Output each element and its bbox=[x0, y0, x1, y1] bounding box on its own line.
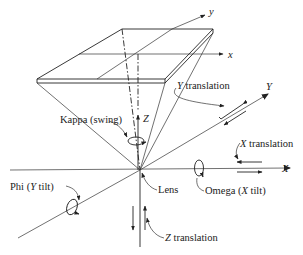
phi-label: Phi (Y tilt) bbox=[10, 181, 54, 193]
image-x-label: x bbox=[227, 49, 233, 60]
camera-orientation-diagram: x y Z Kappa (swing) X Y bbox=[0, 0, 303, 255]
ground-z-label: Z bbox=[143, 113, 149, 124]
omega-label: Omega (X tilt) bbox=[205, 185, 266, 197]
lens-leader bbox=[142, 173, 157, 190]
z-translation-leader bbox=[147, 218, 164, 238]
image-y-label: y bbox=[208, 6, 214, 17]
phi-leader bbox=[66, 186, 79, 200]
x-translation-arrows bbox=[237, 162, 262, 172]
x-translation-label: X translation bbox=[239, 138, 294, 149]
z-translation-label: Z translation bbox=[165, 232, 219, 243]
y-translation-label: Y translation bbox=[177, 80, 231, 91]
image-y-axis: y bbox=[172, 6, 214, 29]
ground-x-label: X bbox=[281, 163, 289, 174]
y-translation-arrows bbox=[219, 104, 246, 125]
kappa-label: Kappa (swing) bbox=[60, 114, 123, 126]
omega-leader bbox=[197, 178, 204, 191]
phi-rotation-icon bbox=[65, 198, 80, 216]
ground-y-label: Y bbox=[266, 81, 273, 92]
lens-label: Lens bbox=[158, 184, 178, 195]
z-translation-arrows bbox=[133, 206, 145, 230]
